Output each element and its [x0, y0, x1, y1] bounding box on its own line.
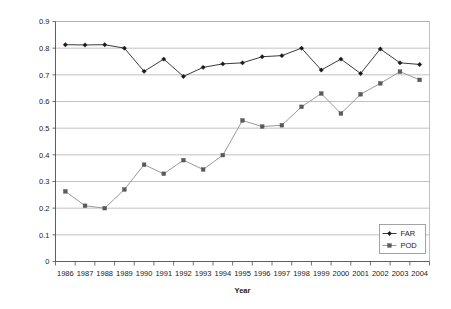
data-point-pod [280, 123, 284, 127]
data-point-pod [142, 163, 146, 167]
x-axis-title: Year [235, 286, 251, 295]
gridlines [56, 22, 430, 235]
data-point-pod [378, 81, 382, 85]
data-point-pod [182, 158, 186, 162]
y-tick-label: 0.1 [39, 231, 49, 240]
data-point-pod [260, 125, 264, 129]
x-tick-label: 1997 [274, 269, 291, 278]
data-point-pod [359, 92, 363, 96]
series-pod [63, 70, 421, 210]
x-tick-label: 1987 [77, 269, 94, 278]
x-tick-label: 1996 [254, 269, 271, 278]
x-tick-label: 2004 [411, 269, 428, 278]
legend: FARPOD [380, 225, 426, 254]
x-tick-label: 1988 [96, 269, 113, 278]
data-point-pod [418, 78, 422, 82]
x-tick-label: 1995 [234, 269, 251, 278]
x-tick-label: 1990 [136, 269, 153, 278]
data-point-pod [162, 172, 166, 176]
data-point-pod [339, 112, 343, 116]
y-tick-label: 0.5 [39, 124, 49, 133]
line-chart: 00.10.20.30.40.50.60.70.80.9198619871988… [0, 0, 451, 309]
data-point-pod [319, 92, 323, 96]
legend-label: POD [401, 241, 418, 250]
data-point-pod [221, 153, 225, 157]
x-axis-ticks: 1986198719881989199019911992199319941995… [56, 262, 430, 278]
data-point-far [417, 62, 421, 66]
data-point-pod [300, 105, 304, 109]
series-line-pod [65, 72, 419, 209]
y-tick-label: 0.8 [39, 44, 49, 53]
data-point-pod [63, 189, 67, 193]
x-tick-label: 1986 [57, 269, 74, 278]
y-axis-ticks: 00.10.20.30.40.50.60.70.80.9 [39, 17, 55, 266]
data-point-far [240, 61, 244, 65]
data-point-pod [398, 70, 402, 74]
x-tick-label: 1993 [195, 269, 212, 278]
data-point-far [260, 55, 264, 59]
chart-container: 00.10.20.30.40.50.60.70.80.9198619871988… [0, 0, 451, 309]
data-point-pod [241, 119, 245, 123]
data-point-far [280, 53, 284, 57]
data-point-pod [103, 206, 107, 210]
data-point-far [201, 65, 205, 69]
x-tick-label: 1992 [175, 269, 192, 278]
legend-marker-pod [388, 244, 392, 248]
y-tick-label: 0.7 [39, 71, 49, 80]
x-tick-label: 2001 [352, 269, 369, 278]
x-tick-label: 1998 [293, 269, 310, 278]
x-tick-label: 2002 [372, 269, 389, 278]
y-tick-label: 0.4 [39, 151, 49, 160]
legend-label: FAR [401, 229, 416, 238]
y-tick-label: 0.3 [39, 177, 49, 186]
x-tick-label: 2000 [333, 269, 350, 278]
data-point-far [83, 43, 87, 47]
data-point-far [63, 43, 67, 47]
y-tick-label: 0.6 [39, 97, 49, 106]
x-tick-label: 1994 [214, 269, 231, 278]
x-tick-label: 2003 [392, 269, 409, 278]
y-tick-label: 0.2 [39, 204, 49, 213]
x-tick-label: 1999 [313, 269, 330, 278]
y-tick-label: 0 [45, 257, 49, 266]
x-tick-label: 1989 [116, 269, 133, 278]
data-point-far [221, 62, 225, 66]
x-tick-label: 1991 [155, 269, 172, 278]
data-point-far [103, 43, 107, 47]
data-point-pod [83, 204, 87, 208]
data-point-pod [122, 188, 126, 192]
data-point-pod [201, 168, 205, 172]
y-tick-label: 0.9 [39, 17, 49, 26]
